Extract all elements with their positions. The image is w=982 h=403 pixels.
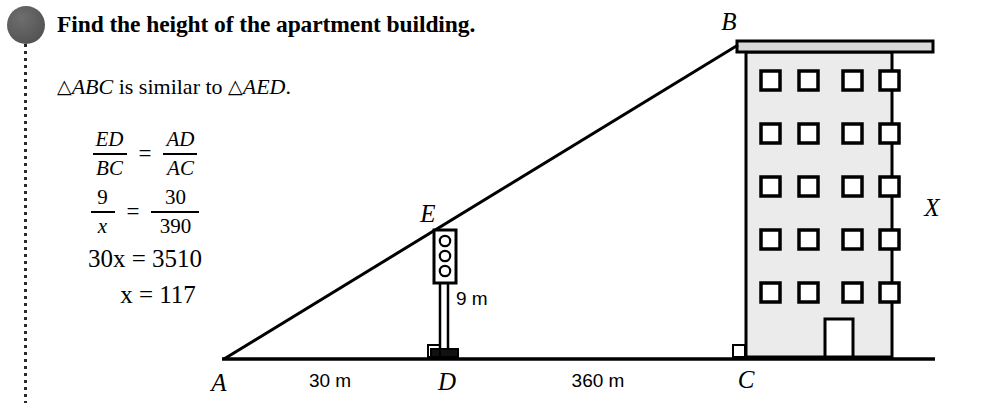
window (880, 283, 899, 302)
vertex-label-c: C (738, 366, 755, 393)
building-door (825, 319, 853, 357)
window (761, 71, 780, 90)
similar-triangles-diagram: B A D C E 30 m 360 m 9 m X (0, 0, 982, 403)
building-body (746, 52, 892, 357)
vertex-label-d: D (437, 368, 456, 395)
window (761, 283, 780, 302)
window (880, 124, 899, 143)
building-roof-slab (737, 41, 933, 52)
measure-label-base-left: 30 m (309, 370, 351, 391)
line-segment-ab (224, 45, 738, 359)
window (761, 177, 780, 196)
window (761, 230, 780, 249)
measure-label-building-height: X (923, 194, 941, 221)
window (843, 230, 862, 249)
window (843, 124, 862, 143)
window (843, 283, 862, 302)
worked-example-page: Find the height of the apartment buildin… (0, 0, 982, 403)
traffic-lamp-middle-icon (440, 251, 450, 261)
window (843, 177, 862, 196)
window (880, 230, 899, 249)
window (761, 124, 780, 143)
window (799, 177, 818, 196)
traffic-lamp-bottom-icon (440, 266, 450, 276)
window (799, 71, 818, 90)
right-angle-marker-c (733, 345, 745, 357)
measure-label-base-right: 360 m (572, 370, 625, 391)
window (799, 124, 818, 143)
window (843, 71, 862, 90)
traffic-light-base (431, 349, 458, 357)
vertex-label-b: B (721, 8, 736, 35)
vertex-label-a: A (209, 369, 227, 396)
measure-label-pole-height: 9 m (456, 288, 488, 309)
vertex-label-e: E (419, 200, 435, 227)
window (799, 283, 818, 302)
traffic-lamp-top-icon (440, 236, 450, 246)
window (880, 71, 899, 90)
window (799, 230, 818, 249)
window (880, 177, 899, 196)
